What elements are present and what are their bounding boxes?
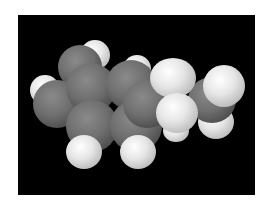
hydrogen-atom xyxy=(120,135,156,169)
hydrogen-atom xyxy=(150,58,196,98)
hydrogen-atom xyxy=(203,65,245,107)
hydrogen-atom xyxy=(156,93,198,133)
molecule-viewport xyxy=(18,15,255,195)
hydrogen-atom xyxy=(66,135,102,169)
